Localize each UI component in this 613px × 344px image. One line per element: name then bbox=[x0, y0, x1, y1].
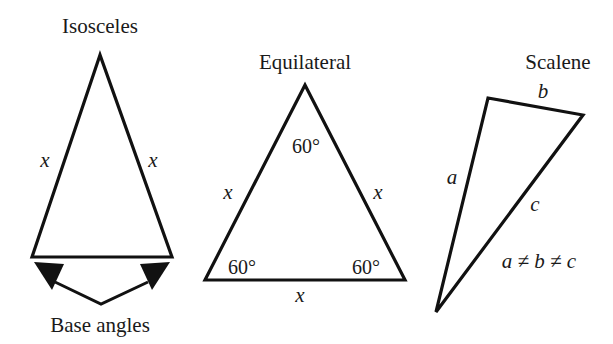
equilateral-base-side-label: x bbox=[294, 283, 305, 307]
equilateral-left-angle-label: 60° bbox=[228, 256, 256, 278]
scalene-title: Scalene bbox=[525, 50, 590, 74]
equilateral-left-side-label: x bbox=[222, 180, 233, 204]
equilateral-top-angle-label: 60° bbox=[292, 135, 320, 157]
triangle-types-diagram: Isosceles x x Base angles Equilateral 60… bbox=[0, 0, 613, 344]
equilateral-title: Equilateral bbox=[259, 50, 351, 74]
scalene-side-b-label: b bbox=[538, 79, 549, 103]
isosceles-left-side-label: x bbox=[39, 148, 50, 172]
equilateral-right-angle-label: 60° bbox=[352, 256, 380, 278]
scalene-side-a-label: a bbox=[447, 165, 458, 189]
base-angles-label: Base angles bbox=[50, 313, 150, 337]
isosceles-triangle-group: Isosceles x x Base angles bbox=[32, 14, 172, 337]
equilateral-right-side-label: x bbox=[372, 180, 383, 204]
scalene-inequality-label: a ≠ b ≠ c bbox=[502, 249, 577, 273]
scalene-triangle bbox=[436, 98, 583, 312]
right-base-angle-marker-icon bbox=[140, 262, 170, 290]
scalene-side-c-label: c bbox=[530, 192, 540, 216]
isosceles-right-side-label: x bbox=[147, 148, 158, 172]
base-angles-pointer-arrow-icon bbox=[55, 282, 148, 304]
scalene-triangle-group: Scalene a b c a ≠ b ≠ c bbox=[436, 50, 591, 312]
isosceles-title: Isosceles bbox=[62, 14, 138, 38]
equilateral-triangle-group: Equilateral 60° 60° 60° x x x bbox=[205, 50, 405, 307]
